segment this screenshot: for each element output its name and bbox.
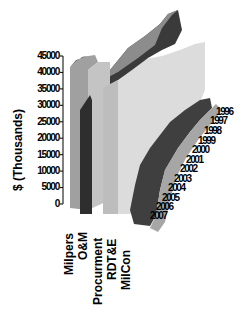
y-tick-label: 15000 (37, 150, 59, 160)
y-tick-label: 20000 (37, 133, 59, 143)
depth-label: 2007 (150, 211, 167, 221)
y-axis-title: $ (Thousands) (11, 109, 25, 191)
category-label-procurment: Procurment (91, 238, 105, 305)
y-tick-label: 10000 (37, 166, 59, 176)
category-label-rdte: RDT&E (105, 239, 119, 280)
y-tick-label: 30000 (37, 100, 59, 110)
y-tick-label: 5000 (42, 182, 59, 192)
series-procurment-front (103, 80, 118, 214)
category-label-om: O&M (76, 232, 90, 260)
y-tick-label: 45000 (37, 51, 59, 61)
y-tick-label: 40000 (37, 67, 59, 77)
y-tick-label: 0 (55, 199, 59, 209)
category-label-milpers: Milpers (62, 233, 76, 275)
y-tick-label: 25000 (37, 117, 59, 127)
y-tick-label: 35000 (37, 84, 59, 94)
category-label-milcon: MilCon (119, 250, 133, 290)
series-om-front (80, 95, 92, 214)
chart-3d-ribbon: 45000 40000 35000 30000 25000 20000 1500… (0, 0, 249, 322)
